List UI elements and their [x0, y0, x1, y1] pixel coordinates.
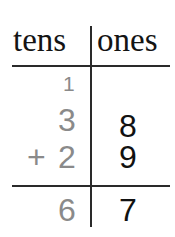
addend2-tens-digit: 2	[58, 141, 76, 173]
addend1-tens-digit: 3	[58, 104, 76, 136]
addend2-ones-digit: 9	[119, 141, 137, 173]
sum-divider-line	[12, 185, 170, 187]
addend1-ones-digit: 8	[119, 110, 137, 142]
tens-header: tens	[13, 24, 66, 57]
sum-tens-digit: 6	[58, 194, 76, 226]
carry-digit-tens: 1	[63, 73, 75, 94]
plus-operator: +	[27, 141, 46, 173]
ones-header: ones	[97, 24, 158, 57]
sum-ones-digit: 7	[119, 194, 137, 226]
place-value-addition-chart: tens ones 1 3 8 + 2 9 6 7	[0, 0, 175, 237]
column-divider-line	[90, 26, 92, 227]
